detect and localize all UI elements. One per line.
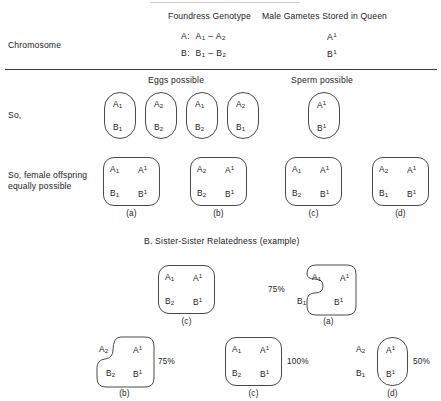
relatedness-d-maternal-a: A2 [356,344,365,354]
relatedness-a-paternal-a: A1 [340,272,349,283]
relatedness-caption-d: (d) [377,389,408,398]
foundress-chromosome-b: B: B1 – B2 [181,48,226,58]
offspring-a-maternal-a: A1 [110,164,119,174]
relatedness-caption-c-bottom: (c) [225,389,282,398]
relatedness-percent-b: 75% [158,357,175,366]
relatedness-b-paternal-b: B1 [133,368,142,379]
offspring-d-maternal-b: B1 [379,188,388,198]
chrom-a-dash: – [208,31,213,41]
row-label-so: So, [8,110,21,121]
relatedness-a-paternal-b: B1 [334,296,343,307]
egg-3-allele-b: B2 [195,122,204,132]
offspring-c-maternal-a: A1 [292,164,301,174]
relatedness-d-paternal-a: A1 [386,344,395,355]
offspring-caption-a: (a) [103,209,160,218]
chrom-a-allele2: A2 [216,31,226,41]
relatedness-b-paternal-a: A1 [133,344,142,355]
relatedness-d-maternal-b: B1 [356,368,365,378]
relatedness-c-bottom-paternal-b: B1 [260,368,269,379]
offspring-caption-d: (d) [372,209,429,218]
relatedness-b-maternal-a: A2 [99,344,108,354]
header-male-gametes: Male Gametes Stored in Queen [262,11,387,21]
relatedness-caption-a: (a) [300,317,357,326]
relatedness-c-bottom-maternal-b: B2 [232,368,241,378]
relatedness-c-top-maternal-a: A1 [165,272,174,282]
row-label-chromosome: Chromosome [8,40,61,51]
sperm-1-allele-b: B1 [317,122,326,133]
relatedness-c-bottom-paternal-a: A1 [260,344,269,355]
page-top-cut-artifact [150,2,300,3]
header-foundress-genotype: Foundress Genotype [168,11,251,21]
egg-3-allele-a: A1 [195,99,204,109]
relatedness-c-top-maternal-b: B2 [165,296,174,306]
egg-1-allele-b: B1 [113,122,122,132]
relatedness-percent-c-bottom: 100% [287,357,309,366]
offspring-b-paternal-a: A1 [225,164,234,175]
egg-4-allele-b: B1 [236,122,245,132]
egg-1-allele-a: A1 [113,99,122,109]
relatedness-caption-c-top: (c) [158,317,215,326]
chrom-b-allele2: B2 [216,48,226,58]
offspring-b-maternal-b: B2 [197,188,206,198]
offspring-caption-c: (c) [285,209,342,218]
offspring-d-paternal-b: B1 [407,188,416,199]
male-gamete-b: B1 [327,48,337,59]
male-gamete-a: A1 [327,31,337,42]
relatedness-a-maternal-a: A1 [312,272,321,282]
egg-2-allele-b: B2 [154,122,163,132]
relatedness-percent-a: 75% [268,285,285,294]
offspring-b-paternal-b: B1 [225,188,234,199]
chrom-a-allele1: A1 [193,31,206,41]
egg-2-allele-a: A2 [154,99,163,109]
chrom-b-allele1: B1 [193,48,206,58]
chrom-a-label: A: [181,31,190,41]
chrom-b-dash: – [208,48,213,58]
offspring-c-paternal-b: B1 [320,188,329,199]
relatedness-caption-b: (b) [96,389,153,398]
offspring-c-maternal-b: B2 [292,188,301,198]
relatedness-c-top-paternal-a: A1 [193,272,202,283]
foundress-chromosome-a: A: A1 – A2 [181,31,226,41]
offspring-caption-b: (b) [190,209,247,218]
genetics-diagram: Foundress Genotype Male Gametes Stored i… [0,0,441,401]
egg-4-allele-a: A2 [236,99,245,109]
relatedness-c-bottom-maternal-a: A1 [232,344,241,354]
relatedness-c-top-paternal-b: B1 [193,296,202,307]
offspring-b-maternal-a: A2 [197,164,206,174]
relatedness-d-paternal-b: B1 [386,368,395,379]
row-label-female-offspring-line1: So, female offspring [8,170,87,181]
offspring-a-paternal-b: B1 [138,188,147,199]
offspring-c-paternal-a: A1 [320,164,329,175]
row-label-female-offspring: So, female offspring equally possible [8,170,87,191]
chrom-b-label: B: [181,48,190,58]
relatedness-percent-d: 50% [413,357,430,366]
offspring-d-paternal-a: A1 [407,164,416,175]
row-label-female-offspring-line2: equally possible [8,181,87,192]
header-sister-sister-relatedness: B. Sister-Sister Relatedness (example) [144,236,300,246]
relatedness-a-maternal-b: B1 [297,296,306,306]
section-divider-rule [5,69,437,70]
offspring-a-paternal-a: A1 [138,164,147,175]
offspring-a-maternal-b: B1 [110,188,119,198]
header-sperm-possible: Sperm possible [291,75,353,85]
relatedness-b-maternal-b: B2 [106,368,115,378]
offspring-d-maternal-a: A2 [379,164,388,174]
sperm-1-allele-a: A1 [317,99,326,110]
header-eggs-possible: Eggs possible [148,75,204,85]
